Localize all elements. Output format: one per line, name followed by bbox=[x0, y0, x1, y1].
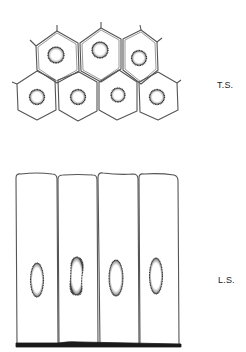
tissue-diagram bbox=[0, 0, 246, 352]
ls-cell-4 bbox=[139, 174, 179, 345]
ls-nuclei bbox=[31, 257, 163, 297]
ts-nucleus bbox=[71, 90, 86, 105]
ls-nucleus bbox=[70, 257, 83, 295]
ts-nucleus bbox=[48, 47, 64, 63]
ls-nucleus bbox=[31, 263, 44, 297]
ts-nucleus bbox=[92, 42, 108, 58]
ts-nucleus bbox=[30, 90, 45, 105]
ls-nucleus bbox=[109, 260, 123, 296]
ts-nucleus bbox=[150, 90, 165, 105]
ts-label: T.S. bbox=[217, 80, 233, 90]
transverse-section bbox=[12, 22, 181, 121]
ls-nucleus bbox=[150, 258, 163, 294]
ls-label: L.S. bbox=[218, 275, 235, 285]
ts-nucleus bbox=[132, 51, 147, 66]
ls-cell-3 bbox=[98, 173, 139, 345]
basement-membrane bbox=[16, 342, 181, 347]
ls-cell-1 bbox=[16, 173, 58, 345]
ts-nucleus bbox=[111, 88, 125, 102]
